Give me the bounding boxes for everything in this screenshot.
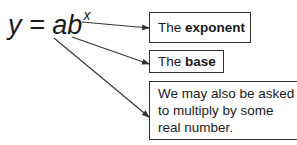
arrow-base (72, 37, 149, 64)
callout-exponent: The exponent (149, 12, 251, 43)
callout-base-prefix: The (158, 54, 185, 69)
callout-base-bold: base (185, 54, 216, 69)
arrow-coefficient (54, 38, 149, 117)
arrow-exponent (82, 22, 149, 28)
callout-exponent-bold: exponent (185, 20, 245, 35)
callout-real-number-text: We may also be asked to multiply by some… (158, 86, 294, 135)
callout-base: The base (149, 50, 224, 73)
callout-exponent-prefix: The (158, 20, 185, 35)
callout-real-number: We may also be asked to multiply by some… (149, 81, 297, 140)
